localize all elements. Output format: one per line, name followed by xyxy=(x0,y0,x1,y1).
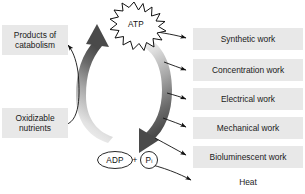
bioluminescent-work-box: Bioluminescent work xyxy=(193,146,303,168)
bioluminescent-work-label: Bioluminescent work xyxy=(210,152,287,162)
arrow-to-bioluminescent-work xyxy=(155,138,186,155)
phosphate-subscript: i xyxy=(151,158,152,164)
oxidizable-nutrients-box: Oxidizable nutrients xyxy=(2,108,68,138)
oxidizable-nutrients-label: Oxidizable nutrients xyxy=(15,113,54,134)
concentration-work-label: Concentration work xyxy=(212,65,284,75)
heat-label: Heat xyxy=(239,177,257,187)
heat-label-wrap: Heat xyxy=(193,174,303,190)
adp-label: ADP xyxy=(99,154,131,167)
electrical-work-box: Electrical work xyxy=(193,88,303,110)
synthetic-work-box: Synthetic work xyxy=(193,28,303,50)
concentration-work-box: Concentration work xyxy=(193,59,303,81)
mechanical-work-label: Mechanical work xyxy=(217,123,279,133)
adp-to-atp-arrow xyxy=(76,24,113,143)
products-of-catabolism-label: Products of catabolism xyxy=(14,30,56,51)
mechanical-work-box: Mechanical work xyxy=(193,117,303,139)
electrical-work-label: Electrical work xyxy=(221,94,275,104)
synthetic-work-label: Synthetic work xyxy=(221,34,275,44)
atp-cycle-diagram: Products of catabolism Oxidizable nutrie… xyxy=(0,0,305,194)
atp-to-adp-arrow xyxy=(139,36,172,153)
plus-sign: + xyxy=(130,154,140,167)
arrow-to-mechanical-work xyxy=(163,118,186,127)
products-of-catabolism-box: Products of catabolism xyxy=(2,25,68,55)
atp-label: ATP xyxy=(118,18,154,31)
phosphate-label: Pi xyxy=(142,154,156,167)
